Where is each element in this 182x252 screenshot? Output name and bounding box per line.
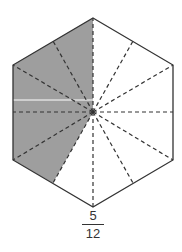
denominator: 12 (78, 226, 108, 241)
fraction-bar (82, 224, 104, 225)
numerator: 5 (78, 208, 108, 223)
fraction-label: 5 12 (78, 208, 108, 241)
dashed-dividers (13, 18, 173, 207)
